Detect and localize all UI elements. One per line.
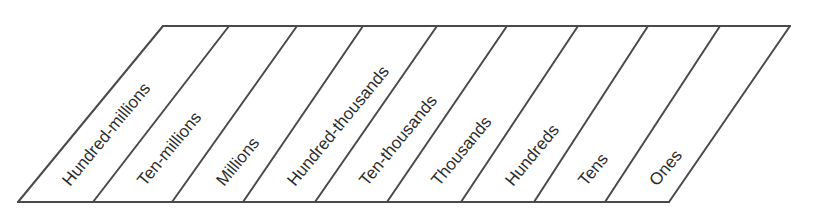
column-label-thousands: Thousands <box>427 113 495 190</box>
right-border <box>669 26 790 202</box>
column-label-tens: Tens <box>574 150 612 190</box>
column-label-ten-millions: Ten-millions <box>133 108 205 189</box>
place-value-chart: Hundred-millionsTen-millionsMillionsHund… <box>0 0 813 221</box>
column-label-hundreds: Hundreds <box>501 121 563 190</box>
column-label-millions: Millions <box>212 134 263 190</box>
column-label-ones: Ones <box>645 146 686 189</box>
